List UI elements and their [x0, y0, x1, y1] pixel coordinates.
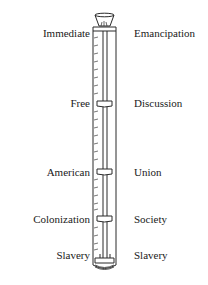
ring-society — [97, 216, 112, 222]
tube-illustration — [0, 0, 208, 285]
funnel-cap-icon — [95, 13, 114, 26]
tube-body — [93, 31, 116, 269]
ring-union — [97, 169, 112, 175]
ring-free — [97, 101, 112, 107]
